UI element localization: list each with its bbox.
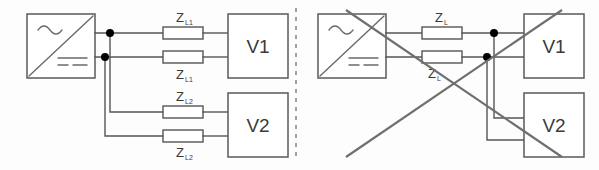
svg-text:L: L: [437, 75, 441, 82]
left-impedance-label-zl1-upper: Z L1: [176, 10, 193, 26]
svg-text:Z: Z: [176, 145, 184, 160]
left-inverter-source: [27, 14, 95, 78]
left-v2-lower-tap-wire: [105, 57, 163, 136]
left-impedance-label-zl2-lower: Z L2: [176, 145, 193, 161]
diagram-canvas: V1 V2 Z L1 Z L1 Z L2 Z L2: [0, 0, 599, 170]
svg-text:Z: Z: [176, 67, 184, 82]
svg-text:Z: Z: [176, 89, 184, 104]
right-impedance-zl-lower: [422, 51, 462, 63]
right-load-label-v2: V2: [542, 115, 565, 136]
left-feeder-v1: [95, 27, 228, 63]
panel-left: V1 V2 Z L1 Z L1 Z L2 Z L2: [27, 10, 288, 161]
panel-right: V1 V2 Z L Z L: [318, 10, 584, 157]
right-junction-dot-upper: [490, 29, 498, 37]
right-shared-feeder: [386, 27, 524, 63]
svg-text:Z: Z: [176, 10, 184, 25]
svg-text:L1: L1: [185, 76, 193, 83]
left-junction-dot-upper: [106, 29, 114, 37]
left-impedance-zl1-lower: [163, 51, 203, 63]
svg-text:L1: L1: [185, 19, 193, 26]
right-inverter-source: [318, 14, 386, 78]
left-impedance-label-zl1-lower: Z L1: [176, 67, 193, 83]
left-impedance-zl2-upper: [163, 106, 203, 118]
left-impedance-zl1-upper: [163, 27, 203, 39]
circuit-diagram-figure: V1 V2 Z L1 Z L1 Z L2 Z L2: [0, 0, 599, 170]
left-load-label-v1: V1: [246, 36, 269, 57]
left-v2-upper-tap-wire: [110, 33, 163, 112]
left-junction-dot-lower: [101, 53, 109, 61]
left-impedance-label-zl2-upper: Z L2: [176, 89, 193, 105]
left-impedance-zl2-lower: [163, 130, 203, 142]
left-feeder-v2: [105, 33, 228, 142]
left-load-label-v2: V2: [246, 115, 269, 136]
right-impedance-label-zl-upper: Z L: [435, 10, 448, 26]
right-impedance-zl-upper: [422, 27, 462, 39]
svg-text:Z: Z: [435, 10, 443, 25]
svg-text:L: L: [444, 19, 448, 26]
right-load-label-v1: V1: [542, 36, 565, 57]
svg-text:L2: L2: [185, 154, 193, 161]
svg-text:L2: L2: [185, 98, 193, 105]
